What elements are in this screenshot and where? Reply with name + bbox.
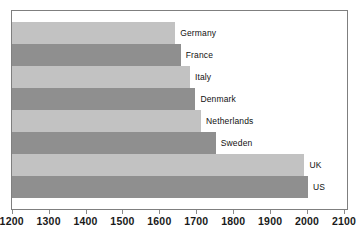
x-tick <box>307 210 308 214</box>
x-tick <box>159 210 160 214</box>
bar-label-uk: UK <box>309 160 321 170</box>
bar-germany <box>12 22 175 44</box>
plot-area: GermanyFranceItalyDenmarkNetherlandsSwed… <box>11 10 348 210</box>
x-tick-label: 2000 <box>295 215 319 227</box>
x-tick <box>49 210 50 214</box>
x-tick <box>233 210 234 214</box>
x-tick <box>196 210 197 214</box>
x-tick <box>12 210 13 214</box>
bar-label-germany: Germany <box>180 28 216 38</box>
x-tick-label: 1900 <box>258 215 282 227</box>
x-tick <box>344 210 345 214</box>
x-tick-label: 1500 <box>110 215 134 227</box>
bar-denmark <box>12 88 195 110</box>
x-tick-label: 2100 <box>332 215 356 227</box>
x-tick-label: 1200 <box>0 215 24 227</box>
bar-row: Italy <box>12 66 348 88</box>
bar-label-italy: Italy <box>195 72 211 82</box>
bar-row: Germany <box>12 22 348 44</box>
bar-row: France <box>12 44 348 66</box>
x-tick-label: 1800 <box>221 215 245 227</box>
bar-row: US <box>12 176 348 198</box>
bar-italy <box>12 66 190 88</box>
bar-chart: GermanyFranceItalyDenmarkNetherlandsSwed… <box>0 0 362 236</box>
bar-label-sweden: Sweden <box>221 138 253 148</box>
bar-sweden <box>12 132 216 154</box>
x-tick-label: 1700 <box>184 215 208 227</box>
bar-label-france: France <box>186 50 213 60</box>
bar-row: UK <box>12 154 348 176</box>
bar-netherlands <box>12 110 201 132</box>
x-tick <box>122 210 123 214</box>
x-tick-label: 1600 <box>147 215 171 227</box>
bar-us <box>12 176 308 198</box>
x-tick-label: 1400 <box>73 215 97 227</box>
x-axis-tick-labels: 1200130014001500160017001800190020002100 <box>0 215 362 236</box>
bar-uk <box>12 154 304 176</box>
x-tick-label: 1300 <box>37 215 61 227</box>
bar-france <box>12 44 181 66</box>
x-tick <box>270 210 271 214</box>
bar-label-denmark: Denmark <box>200 94 236 104</box>
x-tick <box>86 210 87 214</box>
bar-row: Denmark <box>12 88 348 110</box>
bar-label-us: US <box>313 182 325 192</box>
bar-label-netherlands: Netherlands <box>206 116 253 126</box>
bar-row: Sweden <box>12 132 348 154</box>
bar-row: Netherlands <box>12 110 348 132</box>
